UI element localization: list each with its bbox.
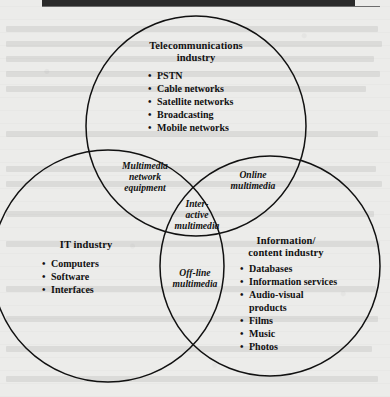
- list-item: PSTN: [148, 69, 278, 82]
- list-item: Software: [42, 270, 152, 283]
- intersection-label-offline-multimedia: Off-line multimedia: [155, 267, 235, 289]
- list-item: Photos: [240, 340, 376, 353]
- list-item: Films: [240, 314, 376, 327]
- intersection-label-multimedia-network-equipment: Multimedia network equipment: [101, 160, 189, 193]
- set-items-information-content: Databases Information services Audio-vis…: [240, 262, 376, 353]
- list-item: Databases: [240, 262, 376, 275]
- list-item: Satellite networks: [148, 95, 278, 108]
- set-items-telecommunications: PSTN Cable networks Satellite networks B…: [148, 69, 278, 134]
- list-item: Computers: [42, 257, 152, 270]
- set-title-it-industry: IT industry: [26, 239, 146, 251]
- set-items-it-industry: Computers Software Interfaces: [42, 257, 152, 296]
- list-item: Broadcasting: [148, 108, 278, 121]
- set-title-telecommunications: Telecommunications industry: [116, 40, 276, 64]
- intersection-label-interactive-multimedia: Inter- active multimedia: [162, 198, 232, 231]
- venn-diagram-page: Telecommunications industry PSTN Cable n…: [0, 0, 390, 397]
- intersection-label-online-multimedia: Online multimedia: [214, 169, 292, 191]
- list-item: Cable networks: [148, 82, 278, 95]
- list-item: Audio-visual products: [240, 288, 376, 314]
- list-item: Interfaces: [42, 283, 152, 296]
- list-item: Music: [240, 327, 376, 340]
- list-item: Mobile networks: [148, 121, 278, 134]
- list-item: Information services: [240, 275, 376, 288]
- set-title-information-content: Information/ content industry: [216, 235, 356, 259]
